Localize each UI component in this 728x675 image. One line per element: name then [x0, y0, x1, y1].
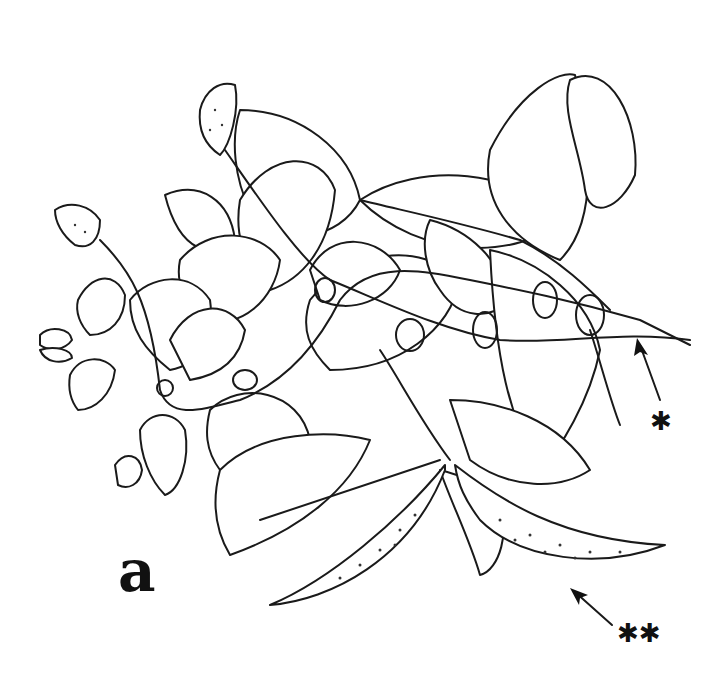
double-asterisk-marker: ✱✱ [617, 620, 661, 646]
panel-label: a [118, 542, 156, 600]
plant-drawing [0, 0, 728, 675]
botanical-illustration: a ✱ ✱✱ [0, 0, 728, 675]
single-asterisk-marker: ✱ [650, 408, 672, 434]
